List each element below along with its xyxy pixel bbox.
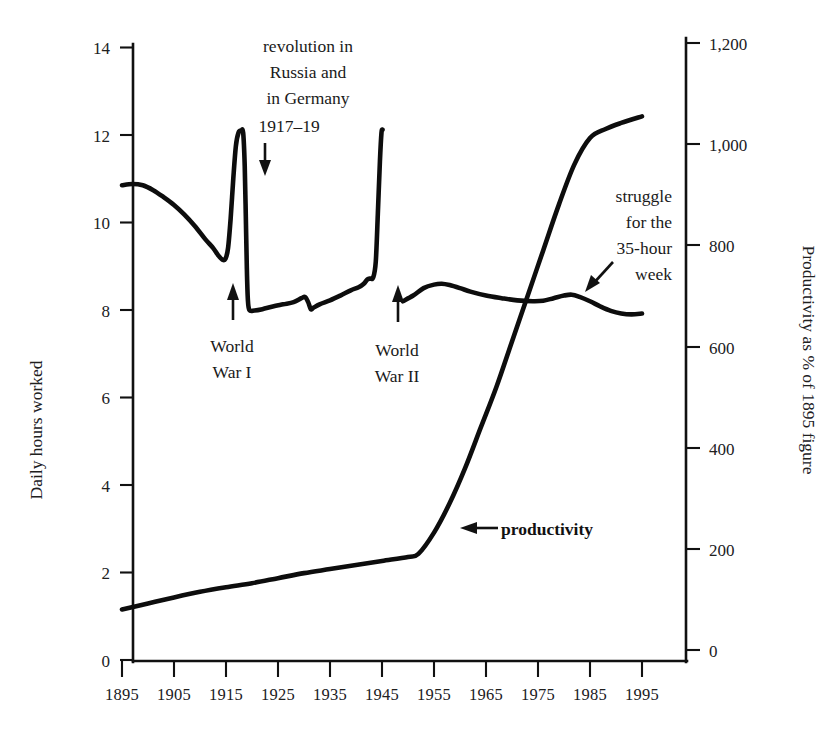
- series-hours-prewar: [122, 129, 383, 311]
- left-tick-6: 6: [102, 389, 111, 408]
- revolution-line-3: in Germany: [266, 88, 349, 108]
- ww2-line-2: War II: [375, 366, 420, 386]
- right-tick-600: 600: [709, 339, 735, 358]
- ww1-line-2: War I: [213, 362, 252, 382]
- annotation-world-war-ii: World War II: [375, 285, 420, 386]
- x-tick-1945: 1945: [365, 685, 399, 704]
- left-axis-ticks: [120, 48, 133, 661]
- struggle-line-4: week: [635, 264, 672, 284]
- x-tick-1925: 1925: [261, 685, 295, 704]
- x-tick-1935: 1935: [313, 685, 347, 704]
- right-axis-ticks: [686, 43, 700, 650]
- struggle-line-1: struggle: [616, 186, 673, 206]
- x-tick-1995: 1995: [625, 685, 659, 704]
- left-tick-10: 10: [93, 214, 110, 233]
- revolution-line-2: Russia and: [270, 62, 347, 82]
- left-tick-14: 14: [93, 39, 111, 58]
- ww2-line-1: World: [375, 340, 419, 360]
- productivity-label: productivity: [501, 519, 593, 539]
- revolution-line-1: revolution in: [263, 36, 353, 56]
- x-tick-1965: 1965: [469, 685, 503, 704]
- annotation-struggle: struggle for the 35-hour week: [585, 186, 672, 292]
- left-tick-2: 2: [102, 564, 111, 583]
- right-tick-400: 400: [709, 440, 735, 459]
- right-axis-title: Productivity as % of 1895 figure: [799, 246, 819, 475]
- left-tick-12: 12: [93, 127, 110, 146]
- chart-figure: 14 12 10 8 6 4 2 0 1,200 1,000 800 600 4…: [0, 0, 840, 741]
- productivity-arrow-left-icon: [460, 522, 498, 534]
- annotation-revolution: revolution in Russia and in Germany 1917…: [258, 36, 353, 176]
- x-tick-1915: 1915: [209, 685, 243, 704]
- struggle-arrow-down-left-icon: [585, 262, 613, 292]
- left-axis-title: Daily hours worked: [26, 360, 46, 499]
- right-axis-tick-labels: 1,200 1,000 800 600 400 200 0: [709, 35, 747, 661]
- x-tick-1985: 1985: [573, 685, 607, 704]
- right-tick-1200: 1,200: [709, 35, 747, 54]
- right-tick-800: 800: [709, 237, 735, 256]
- struggle-line-2: for the: [626, 212, 672, 232]
- revolution-line-4: 1917–19: [258, 116, 320, 136]
- x-tick-1905: 1905: [157, 685, 191, 704]
- revolution-arrow-down-icon: [259, 143, 271, 176]
- left-tick-4: 4: [102, 477, 111, 496]
- ww1-line-1: World: [210, 336, 254, 356]
- left-axis-tick-labels: 14 12 10 8 6 4 2 0: [93, 39, 111, 671]
- right-tick-200: 200: [709, 541, 735, 560]
- x-axis-tick-labels: 1895 1905 1915 1925 1935 1945 1955 1965 …: [105, 685, 659, 704]
- right-tick-1000: 1,000: [709, 136, 747, 155]
- x-tick-1895: 1895: [105, 685, 139, 704]
- struggle-line-3: 35-hour: [617, 238, 673, 258]
- x-tick-1975: 1975: [521, 685, 555, 704]
- annotation-productivity: productivity: [460, 519, 593, 539]
- left-tick-0: 0: [102, 652, 111, 671]
- chart-canvas: 14 12 10 8 6 4 2 0 1,200 1,000 800 600 4…: [0, 0, 840, 741]
- right-tick-0: 0: [709, 642, 718, 661]
- x-axis-ticks: [122, 661, 642, 677]
- left-tick-8: 8: [102, 302, 111, 321]
- x-tick-1955: 1955: [417, 685, 451, 704]
- ww1-arrow-up-icon: [227, 283, 239, 320]
- ww2-arrow-up-icon: [392, 285, 404, 322]
